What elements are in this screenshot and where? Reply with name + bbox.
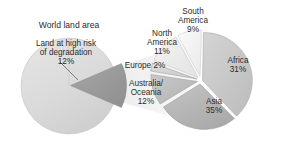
asia-label-value: 35%	[206, 106, 222, 115]
north-america-label-line2: America	[147, 38, 177, 47]
degradation-label-line1: Land at high risk	[36, 39, 97, 48]
australia-label-line2: Oceania	[131, 88, 162, 97]
north-america-label-line1: North	[152, 29, 172, 38]
australia-label-value: 12%	[138, 97, 154, 106]
europe-label: Europe 2%	[125, 61, 166, 70]
africa-label-value: 31%	[230, 65, 246, 74]
south-america-label-value: 9%	[187, 25, 199, 34]
figure-canvas: World land area Land at high risk of deg…	[0, 0, 281, 144]
left-chart-title: World land area	[39, 20, 100, 30]
africa-label-name: Africa	[228, 56, 249, 65]
degradation-label-value: 12%	[58, 57, 74, 66]
asia-label-name: Asia	[206, 97, 222, 106]
south-america-label-line2: America	[178, 16, 208, 25]
degradation-label-line2: of degradation	[40, 48, 93, 57]
australia-label-line1: Australia/	[129, 79, 164, 88]
south-america-label-line1: South	[182, 7, 204, 16]
pie-of-pie-figure: World land area Land at high risk of deg…	[0, 0, 281, 144]
north-america-label-value: 11%	[154, 47, 170, 56]
